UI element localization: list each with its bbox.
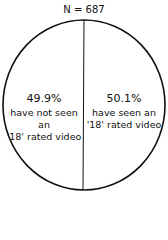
slice-percent: 49.9% — [6, 93, 82, 105]
slice-label-not-seen: 49.9% have not seen an '18' rated video — [6, 93, 82, 143]
slice-desc-line2: '18' rated video — [7, 131, 82, 142]
slice-desc-line1: have seen an — [92, 107, 156, 118]
slice-desc-line1: have not seen an — [10, 107, 78, 130]
slice-label-seen: 50.1% have seen an '18' rated video — [86, 93, 162, 131]
slice-percent: 50.1% — [86, 93, 162, 105]
slice-desc-line2: '18' rated video — [87, 119, 162, 130]
